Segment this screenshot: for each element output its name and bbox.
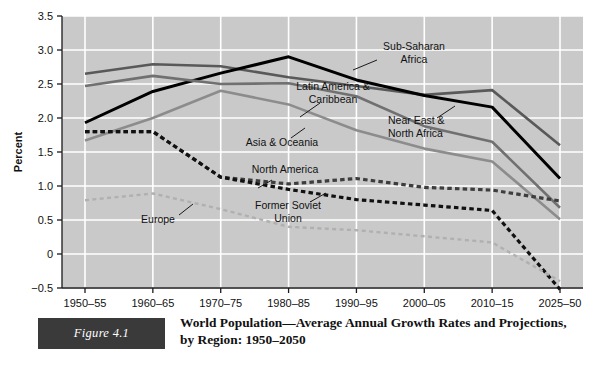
x-tick-label: 1990–95 <box>335 297 378 309</box>
chart-canvas: 3.53.02.52.01.51.00.50−0.5 1950–551960–6… <box>0 0 596 310</box>
y-tick-label: 1.0 <box>38 180 53 192</box>
x-tick-label: 1980–85 <box>267 297 310 309</box>
x-tick-label: 2025–50 <box>539 297 582 309</box>
y-tick-label: 3.0 <box>38 44 53 56</box>
series-label: North America <box>252 163 319 175</box>
y-tick-label: 2.5 <box>38 78 53 90</box>
y-tick-label: 0 <box>47 248 53 260</box>
x-tick-label: 1960–65 <box>131 297 174 309</box>
series-label: Europe <box>141 213 175 225</box>
y-tick-label: 1.5 <box>38 146 53 158</box>
y-tick-label: 0.5 <box>38 214 53 226</box>
figure-caption: Figure 4.1 World Population—Average Annu… <box>0 312 596 366</box>
caption-line-2: by Region: 1950–2050 <box>180 332 566 349</box>
x-tick-label: 2000–05 <box>403 297 446 309</box>
y-axis-title-text: Percent <box>12 131 24 172</box>
y-tick-label: 2.0 <box>38 112 53 124</box>
series-label: Asia & Oceania <box>246 136 319 148</box>
x-tick-label: 1970–75 <box>199 297 242 309</box>
y-tick-label: 3.5 <box>38 10 53 22</box>
line-chart: 3.53.02.52.01.51.00.50−0.5 1950–551960–6… <box>0 0 596 310</box>
x-tick-label: 1950–55 <box>64 297 107 309</box>
figure-container: 3.53.02.52.01.51.00.50−0.5 1950–551960–6… <box>0 0 596 366</box>
series-label: Near East &North Africa <box>388 114 445 139</box>
y-axis-tick-labels: 3.53.02.52.01.51.00.50−0.5 <box>31 10 53 294</box>
y-axis-title: Percent <box>12 131 24 172</box>
figure-number-badge: Figure 4.1 <box>38 318 165 349</box>
figure-caption-text: World Population—Average Annual Growth R… <box>180 315 566 348</box>
x-tick-label: 2010–15 <box>471 297 514 309</box>
y-tick-label: −0.5 <box>31 282 53 294</box>
x-axis-tick-labels: 1950–551960–651970–751980–851990–952000–… <box>64 297 582 309</box>
caption-line-1: World Population—Average Annual Growth R… <box>180 315 566 332</box>
